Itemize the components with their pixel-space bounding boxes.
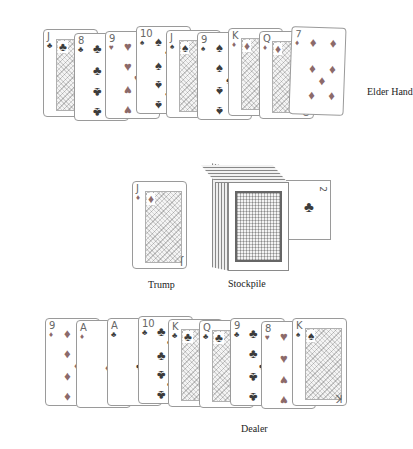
card-suit-icon: ♥ xyxy=(265,334,270,342)
stockpile-side-card[interactable]: 2 ♣ xyxy=(286,180,331,240)
suit-pip-icon: ♦ xyxy=(64,391,71,404)
suit-pip-icon: ♠ xyxy=(155,79,162,92)
suit-pip-icon: ♥ xyxy=(124,104,132,117)
suit-pip-icon: ♣ xyxy=(249,347,258,360)
suit-pip-icon: ♦ xyxy=(329,62,336,75)
card-suit-icon: ♦ xyxy=(263,44,267,52)
card-suit-icon: ♦ xyxy=(232,41,236,49)
card-suit-icon: ♦ xyxy=(274,43,282,55)
suit-pip-icon: ♠ xyxy=(155,99,162,112)
suit-pip-icon: ♣ xyxy=(249,391,258,404)
playing-card[interactable]: J♦♦J xyxy=(132,181,187,269)
suit-pip-icon: ♥ xyxy=(124,84,132,97)
side-card-rank: 2 xyxy=(318,186,328,192)
suit-pip-icon: ♥ xyxy=(280,352,288,365)
card-suit-icon: ♠ xyxy=(296,331,300,339)
suit-pip-icon: ♠ xyxy=(155,59,162,72)
card-suit-icon: ♦ xyxy=(80,333,84,341)
playing-card[interactable]: K♠♠K xyxy=(292,318,347,406)
card-suit-icon: ♣ xyxy=(234,331,239,339)
suit-pip-icon: ♣ xyxy=(249,371,258,384)
suit-pip-icon: ♣ xyxy=(157,349,166,362)
card-suit-icon: ♠ xyxy=(140,39,144,47)
suit-pip-icon: ♦ xyxy=(328,90,335,103)
suit-pip-icon: ♠ xyxy=(216,41,223,54)
card-suit-icon: ♣ xyxy=(111,331,116,339)
suit-pip-icon: ♠ xyxy=(216,105,223,118)
suit-pip-icon: ♣ xyxy=(93,86,102,99)
suit-pip-icon: ♦ xyxy=(330,36,337,49)
suit-pip-icon: ♣ xyxy=(93,42,102,55)
card-back-pattern xyxy=(235,191,282,262)
suit-pip-icon: ♣ xyxy=(157,325,166,338)
suit-pip-icon: ♣ xyxy=(93,64,102,77)
card-suit-icon: ♣ xyxy=(214,332,224,344)
card-suit-icon: ♦ xyxy=(147,193,155,205)
card-suit-icon: ♦ xyxy=(49,331,53,339)
suit-pip-icon: ♥ xyxy=(124,60,132,73)
playing-card[interactable]: 7♦♦♦♦♦♦♦♦ xyxy=(288,26,346,116)
suit-pip-icon: ♦ xyxy=(64,347,71,360)
card-suit-icon: ♣ xyxy=(78,46,83,54)
card-suit-icon: ♠ xyxy=(181,42,189,54)
suit-pip-icon: ♠ xyxy=(216,85,223,98)
elder-hand-label: Elder Hand xyxy=(367,86,413,97)
stockpile-label: Stockpile xyxy=(228,278,266,289)
suit-pip-icon: ♠ xyxy=(216,61,223,74)
trump-label: Trump xyxy=(148,279,175,290)
card-suit-icon: ♥ xyxy=(109,44,114,52)
dealer-label: Dealer xyxy=(241,423,268,434)
suit-pip-icon: ♦ xyxy=(309,62,316,75)
card-suit-icon: ♦ xyxy=(295,39,299,47)
stockpile-top-card-back[interactable] xyxy=(228,182,289,271)
card-suit-icon: ♦ xyxy=(243,40,251,52)
card-suit-icon: ♠ xyxy=(307,330,315,342)
card-suit-icon: ♣ xyxy=(172,332,177,340)
card-suit-icon: ♣ xyxy=(183,331,193,343)
card-pips: ♦♦♦♦♦♦♦ xyxy=(304,34,343,113)
card-suit-icon: ♠ xyxy=(201,45,205,53)
club-icon: ♣ xyxy=(304,199,314,216)
card-suit-icon: ♣ xyxy=(203,333,208,341)
card-suit-icon: ♦ xyxy=(136,194,140,202)
suit-pip-icon: ♠ xyxy=(155,35,162,48)
suit-pip-icon: ♣ xyxy=(157,369,166,382)
suit-pip-icon: ♥ xyxy=(280,374,288,387)
suit-pip-icon: ♣ xyxy=(249,327,258,340)
suit-pip-icon: ♦ xyxy=(318,74,325,87)
card-rank-bottom: K xyxy=(336,393,343,403)
suit-pip-icon: ♣ xyxy=(93,106,102,119)
stockpile-top-edges xyxy=(201,165,288,183)
card-suit-icon: ♠ xyxy=(170,43,174,51)
suit-pip-icon: ♦ xyxy=(308,90,315,103)
suit-pip-icon: ♥ xyxy=(280,394,288,407)
suit-pip-icon: ♦ xyxy=(64,371,71,384)
card-suit-icon: ♣ xyxy=(142,329,147,337)
suit-pip-icon: ♦ xyxy=(310,36,317,49)
card-rank-bottom: J xyxy=(180,256,183,266)
suit-pip-icon: ♣ xyxy=(157,389,166,402)
suit-pip-icon: ♥ xyxy=(280,330,288,343)
suit-pip-icon: ♥ xyxy=(124,40,132,53)
suit-pip-icon: ♦ xyxy=(64,327,71,340)
court-card-art: ♦ xyxy=(145,191,182,263)
court-card-art: ♠ xyxy=(305,328,342,400)
card-suit-icon: ♣ xyxy=(58,41,68,53)
card-suit-icon: ♣ xyxy=(47,42,52,50)
